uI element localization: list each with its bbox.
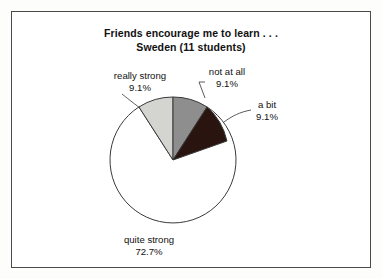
chart-page: Friends encourage me to learn . . . Swed… <box>0 0 382 279</box>
pie-label-really-strong: really strong 9.1% <box>104 70 176 94</box>
pie-label-not-at-all: not at all 9.1% <box>196 66 258 90</box>
pie-label-quite-strong-name: quite strong <box>124 234 174 245</box>
pie-label-not-at-all-name: not at all <box>209 66 245 77</box>
pie-label-really-strong-value: 9.1% <box>104 82 176 94</box>
pie-label-quite-strong: quite strong 72.7% <box>106 234 192 258</box>
pie-label-a-bit: a bit 9.1% <box>243 99 291 123</box>
pie-label-quite-strong-value: 72.7% <box>106 246 192 258</box>
pie-label-not-at-all-value: 9.1% <box>196 78 258 90</box>
pie-label-a-bit-value: 9.1% <box>243 111 291 123</box>
pie-label-really-strong-name: really strong <box>114 70 166 81</box>
pie-label-a-bit-name: a bit <box>258 99 276 110</box>
leader-line-really-strong <box>122 94 140 108</box>
